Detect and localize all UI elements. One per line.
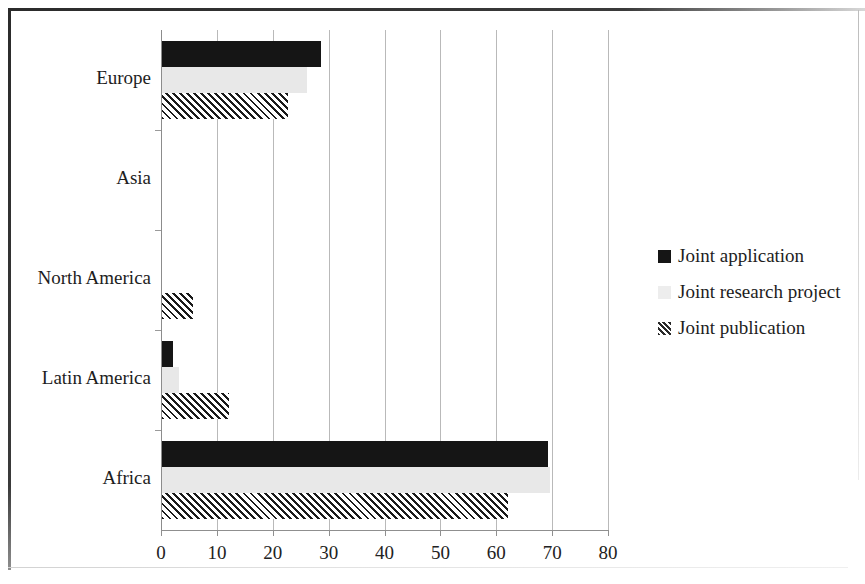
filled-square-lightgray-icon xyxy=(658,286,671,299)
category-label-europe: Europe xyxy=(1,67,151,89)
bar-europe-joint-application xyxy=(162,41,321,67)
x-tick-40 xyxy=(385,530,386,536)
bar-africa-joint-research-project xyxy=(162,467,550,493)
legend-label: Joint application xyxy=(678,245,804,267)
x-tick-label: 40 xyxy=(363,542,407,564)
x-tick-80 xyxy=(608,530,609,536)
filled-square-black-icon xyxy=(658,250,671,263)
category-label-asia: Asia xyxy=(1,167,151,189)
y-tick xyxy=(155,330,161,331)
y-tick xyxy=(155,230,161,231)
bar-latin-america-joint-application xyxy=(162,341,173,367)
legend-item-joint-research-project: Joint research project xyxy=(658,274,858,310)
x-tick-label: 30 xyxy=(307,542,351,564)
page-border-top xyxy=(8,8,865,11)
x-tick-label: 50 xyxy=(418,542,462,564)
x-tick-label: 0 xyxy=(139,542,183,564)
chart-figure: 01020304050607080 EuropeAsiaNorth Americ… xyxy=(0,0,865,584)
bar-africa-joint-application xyxy=(162,441,548,467)
x-tick-label: 20 xyxy=(251,542,295,564)
x-tick-label: 70 xyxy=(530,542,574,564)
x-tick-30 xyxy=(329,530,330,536)
legend-label: Joint publication xyxy=(678,317,805,339)
x-tick-60 xyxy=(496,530,497,536)
x-tick-label: 60 xyxy=(474,542,518,564)
category-label-north-america: North America xyxy=(1,267,151,289)
bar-europe-joint-publication xyxy=(162,93,288,119)
x-tick-0 xyxy=(161,530,162,536)
x-tick-10 xyxy=(217,530,218,536)
bar-africa-joint-publication xyxy=(162,493,508,519)
bar-latin-america-joint-publication xyxy=(162,393,229,419)
gridline-80 xyxy=(608,30,609,530)
category-label-africa: Africa xyxy=(1,467,151,489)
plot-area: 01020304050607080 EuropeAsiaNorth Americ… xyxy=(161,30,608,530)
bar-latin-america-joint-research-project xyxy=(162,367,179,393)
x-tick-20 xyxy=(273,530,274,536)
x-tick-label: 10 xyxy=(195,542,239,564)
x-tick-label: 80 xyxy=(586,542,630,564)
page-border-bottom xyxy=(8,567,848,568)
legend-item-joint-publication: Joint publication xyxy=(658,310,858,346)
bar-europe-joint-research-project xyxy=(162,67,307,93)
gridline-70 xyxy=(552,30,553,530)
y-tick xyxy=(155,130,161,131)
category-label-latin-america: Latin America xyxy=(1,367,151,389)
legend-label: Joint research project xyxy=(678,281,840,303)
chart-legend: Joint applicationJoint research projectJ… xyxy=(658,238,858,346)
page-border-right xyxy=(858,10,859,480)
x-tick-50 xyxy=(440,530,441,536)
y-tick xyxy=(155,430,161,431)
x-tick-70 xyxy=(552,530,553,536)
bar-north-america-joint-publication xyxy=(162,293,193,319)
hatched-square-icon xyxy=(658,322,671,335)
legend-item-joint-application: Joint application xyxy=(658,238,858,274)
